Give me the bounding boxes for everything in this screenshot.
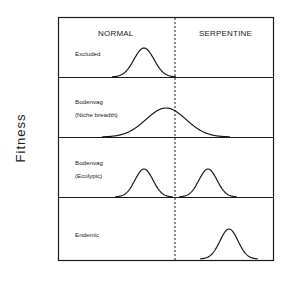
row-sublabel-niche-breadth: (Niche breadth) <box>75 112 118 118</box>
column-header-normal: NORMAL <box>98 30 133 38</box>
fitness-curve-row4-peak1 <box>200 229 258 259</box>
column-header-serpentine: SERPENTINE <box>199 30 252 38</box>
fitness-curve-row3-peak1 <box>115 169 173 197</box>
y-axis-label: Fitness <box>14 114 27 163</box>
row-sublabel-ecolypic: (Ecolypic) <box>75 173 102 179</box>
row-label-endemic: Endemic <box>75 232 99 238</box>
fitness-curve-row2-peak1 <box>102 108 230 137</box>
fitness-curve-row1-peak1 <box>112 48 176 77</box>
diagram-canvas <box>0 0 287 281</box>
row-label-excluded: Excluded <box>75 51 100 57</box>
row-label-bodenvag-ecolypic: Bodenvag <box>75 160 103 166</box>
fitness-niche-diagram: Fitness NORMAL SERPENTINE Excluded Boden… <box>0 0 287 281</box>
fitness-curve-row3-peak2 <box>179 169 237 197</box>
row-label-bodenvag-niche: Bodenvag <box>75 99 103 105</box>
fitness-curves <box>102 48 258 259</box>
